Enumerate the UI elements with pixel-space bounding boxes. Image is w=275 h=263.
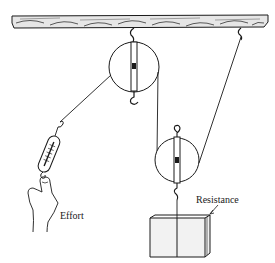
hand-icon xyxy=(28,177,58,232)
spring-scale xyxy=(36,121,63,178)
hook-icon xyxy=(130,91,138,104)
resistance-label: Resistance xyxy=(196,195,239,205)
load-box xyxy=(150,215,210,257)
hook-icon xyxy=(238,28,241,40)
pulley-diagram-canvas xyxy=(0,0,275,263)
rope xyxy=(60,75,111,122)
fixed-pulley xyxy=(109,28,159,104)
hook-icon xyxy=(174,125,180,137)
pulley-diagram: Effort Resistance xyxy=(0,0,275,263)
rope xyxy=(199,37,241,163)
effort-label: Effort xyxy=(60,211,84,221)
hook-icon xyxy=(130,28,134,42)
movable-pulley xyxy=(155,125,199,218)
hook-icon xyxy=(174,183,177,200)
rope xyxy=(157,72,158,155)
ceiling-beam xyxy=(12,15,268,28)
